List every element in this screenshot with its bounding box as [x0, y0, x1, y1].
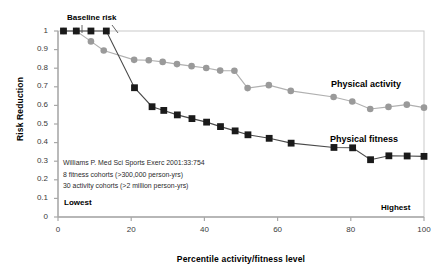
data-point [149, 103, 156, 110]
y-axis-tick-label: 0.9 [24, 44, 48, 53]
y-axis-tick-label: 0.2 [24, 174, 48, 183]
data-point [349, 144, 356, 151]
data-point [266, 135, 273, 142]
data-point [349, 98, 356, 105]
x-axis-tick-label: 100 [409, 225, 439, 234]
x-axis-tick-label: 80 [336, 225, 366, 234]
data-point [367, 106, 374, 113]
y-axis-tick-label: 0.6 [24, 100, 48, 109]
y-axis-tick-label: 1 [24, 26, 48, 35]
data-point [330, 94, 337, 101]
data-point [88, 28, 95, 35]
data-point [232, 127, 239, 134]
data-point [203, 65, 210, 72]
data-point [174, 111, 181, 118]
data-point [100, 47, 107, 54]
data-point [404, 101, 411, 108]
data-point [60, 28, 67, 35]
baseline-risk-leader-line [82, 25, 118, 33]
data-point [159, 59, 166, 66]
citation-line: Williams P. Med Sci Sports Exerc 2001:33… [63, 157, 273, 169]
data-point [288, 140, 295, 147]
annotation-lowest: Lowest [64, 198, 92, 207]
data-point [385, 104, 392, 111]
x-axis-tick-label: 60 [263, 225, 293, 234]
y-axis-tick-label: 0.5 [24, 119, 48, 128]
series-line [63, 31, 424, 109]
series-physical-activity [60, 28, 427, 113]
citation-line: 30 activity cohorts (>2 million person-y… [63, 180, 273, 192]
data-point [73, 28, 80, 35]
data-point [174, 61, 181, 68]
risk-reduction-chart: Risk Reduction Percentile activity/fitne… [0, 0, 448, 273]
data-point [189, 115, 196, 122]
data-point [203, 119, 210, 126]
x-axis-tick-label: 40 [189, 225, 219, 234]
x-axis-tick-label: 0 [43, 225, 73, 234]
y-axis-tick-label: 0.8 [24, 63, 48, 72]
data-point [367, 156, 374, 163]
data-point [331, 144, 338, 151]
data-point [145, 57, 152, 64]
data-point [188, 63, 195, 70]
data-point [421, 153, 428, 160]
data-point [245, 131, 252, 138]
data-point [385, 152, 392, 159]
data-point [217, 67, 224, 74]
annotation-baseline-risk: Baseline risk [67, 13, 116, 22]
data-point [421, 104, 428, 111]
y-axis-tick-label: 0.1 [24, 193, 48, 202]
data-point [103, 28, 110, 35]
x-axis-tick-label: 20 [116, 225, 146, 234]
data-point [266, 82, 273, 89]
y-axis-tick-label: 0.7 [24, 81, 48, 90]
data-point [244, 85, 251, 92]
data-point [404, 153, 411, 160]
series-label-physical-fitness: Physical fitness [330, 134, 398, 144]
citation-block: Williams P. Med Sci Sports Exerc 2001:33… [63, 157, 273, 192]
y-axis-tick-label: 0 [24, 212, 48, 221]
data-point [160, 107, 167, 114]
data-point [231, 68, 238, 75]
y-axis-tick-label: 0.3 [24, 156, 48, 165]
y-axis-tick-label: 0.4 [24, 137, 48, 146]
x-axis-title: Percentile activity/fitness level [58, 254, 424, 264]
data-point [131, 84, 138, 91]
citation-line: 8 fitness cohorts (>300,000 person-yrs) [63, 169, 273, 181]
data-point [131, 57, 138, 64]
data-point [287, 88, 294, 95]
data-point [88, 38, 95, 45]
series-label-physical-activity: Physical activity [331, 79, 401, 89]
annotation-highest: Highest [381, 203, 410, 212]
data-point [217, 123, 224, 130]
